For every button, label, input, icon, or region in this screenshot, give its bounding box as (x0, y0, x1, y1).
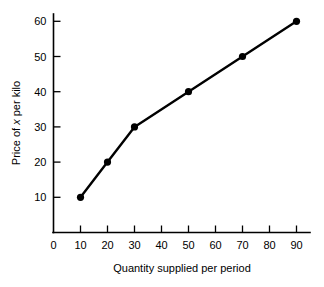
data-point (293, 18, 300, 25)
y-axis-title: Price of x per kilo (10, 81, 22, 165)
x-axis-title: Quantity supplied per period (113, 262, 251, 274)
svg-text:Price of x per kilo: Price of x per kilo (10, 81, 22, 165)
y-tick-label: 50 (34, 51, 46, 63)
x-tick-label: 60 (209, 239, 221, 251)
supply-curve-line (81, 21, 297, 197)
y-tick-label: 20 (34, 156, 46, 168)
x-tick-label: 90 (290, 239, 302, 251)
x-tick-label: 0 (50, 239, 56, 251)
y-axis-ticks: 102030405060 (34, 15, 60, 203)
y-tick-label: 10 (34, 191, 46, 203)
x-axis-ticks: 0102030405060708090 (50, 226, 302, 251)
data-point (185, 88, 192, 95)
y-tick-label: 60 (34, 15, 46, 27)
x-tick-label: 10 (74, 239, 86, 251)
x-tick-label: 50 (182, 239, 194, 251)
data-point (131, 123, 138, 130)
x-tick-label: 30 (128, 239, 140, 251)
data-point (77, 194, 84, 201)
x-tick-label: 80 (263, 239, 275, 251)
supply-curve-points (77, 18, 300, 201)
y-tick-label: 30 (34, 121, 46, 133)
y-axis-title-part-2: per kilo (10, 81, 22, 120)
x-tick-label: 20 (101, 239, 113, 251)
y-tick-label: 40 (34, 86, 46, 98)
x-tick-label: 40 (155, 239, 167, 251)
data-point (104, 159, 111, 166)
data-point (239, 53, 246, 60)
x-tick-label: 70 (236, 239, 248, 251)
chart-canvas: 102030405060 0102030405060708090 Price o… (0, 0, 324, 287)
supply-curve-figure: 102030405060 0102030405060708090 Price o… (0, 0, 324, 287)
y-axis-title-part-1: Price of (10, 125, 22, 165)
